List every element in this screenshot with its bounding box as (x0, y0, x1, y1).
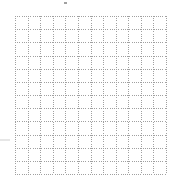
scan-artifact (0, 139, 10, 141)
grid-lines (15, 16, 166, 174)
dotted-grid (15, 16, 166, 174)
top-mark (64, 2, 67, 4)
